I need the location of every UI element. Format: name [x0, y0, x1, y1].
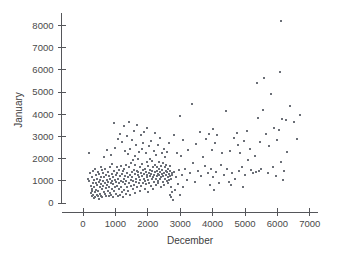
data-point	[102, 172, 104, 174]
data-point	[195, 143, 197, 145]
data-point	[139, 166, 141, 168]
data-point	[94, 168, 96, 170]
data-point	[152, 166, 154, 168]
data-point	[90, 185, 92, 187]
data-point	[112, 183, 114, 185]
data-point	[118, 182, 120, 184]
data-point	[163, 184, 165, 186]
data-point	[182, 139, 184, 141]
data-point	[167, 168, 169, 170]
data-point	[111, 180, 113, 182]
data-point	[226, 168, 228, 170]
data-point	[138, 176, 140, 178]
data-point	[153, 174, 155, 176]
y-axis-ticks: 010002000300040005000600070008000	[32, 20, 65, 209]
data-point	[95, 189, 97, 191]
data-point	[155, 154, 157, 156]
data-point	[265, 133, 267, 135]
data-point	[272, 166, 274, 168]
data-point	[169, 165, 171, 167]
data-point	[98, 198, 100, 200]
x-tick-label: 1000	[105, 218, 126, 229]
data-point	[92, 170, 94, 172]
data-point	[105, 195, 107, 197]
data-point	[147, 179, 149, 181]
data-point	[155, 178, 157, 180]
data-point	[255, 171, 257, 173]
data-point	[280, 20, 282, 22]
data-point	[171, 191, 173, 193]
data-point	[131, 139, 133, 141]
data-point	[213, 189, 215, 191]
data-point	[126, 186, 128, 188]
data-point	[148, 182, 150, 184]
data-point	[249, 148, 251, 150]
data-point	[181, 174, 183, 176]
data-point	[262, 109, 264, 111]
data-point	[100, 176, 102, 178]
data-point	[115, 181, 117, 183]
data-point	[160, 186, 162, 188]
data-point	[120, 186, 122, 188]
data-point	[210, 168, 212, 170]
data-point	[130, 179, 132, 181]
data-point	[233, 137, 235, 139]
data-point	[169, 194, 171, 196]
data-point	[212, 128, 214, 130]
data-point	[121, 141, 123, 143]
data-point	[167, 176, 169, 178]
data-point	[142, 142, 144, 144]
data-point	[136, 186, 138, 188]
data-point	[131, 171, 133, 173]
data-point	[163, 172, 165, 174]
data-point	[153, 150, 155, 152]
data-point	[115, 193, 117, 195]
data-point	[257, 117, 259, 119]
data-point	[115, 174, 117, 176]
data-point	[246, 130, 248, 132]
data-point	[128, 166, 130, 168]
data-point	[106, 179, 108, 181]
data-point	[293, 121, 295, 123]
data-point	[194, 181, 196, 183]
data-point	[144, 168, 146, 170]
data-point	[243, 140, 245, 142]
data-point	[101, 188, 103, 190]
data-point	[231, 172, 233, 174]
data-point	[242, 186, 244, 188]
x-axis-ticks: 01000200030004000500060007000	[80, 208, 320, 229]
x-tick-label: 4000	[202, 218, 223, 229]
data-point	[228, 181, 230, 183]
data-point	[90, 192, 92, 194]
data-point	[168, 179, 170, 181]
data-point	[158, 161, 160, 163]
data-point	[285, 119, 287, 121]
data-point	[89, 172, 91, 174]
data-point	[125, 180, 127, 182]
data-point	[107, 171, 109, 173]
data-point	[100, 195, 102, 197]
data-point	[146, 161, 148, 163]
data-point	[150, 173, 152, 175]
data-point	[96, 184, 98, 186]
data-point	[168, 173, 170, 175]
data-point	[144, 180, 146, 182]
data-point	[170, 178, 172, 180]
data-point	[102, 180, 104, 182]
data-point	[122, 181, 124, 183]
data-point	[170, 196, 172, 198]
data-point	[152, 176, 154, 178]
data-point	[159, 171, 161, 173]
data-point	[263, 77, 265, 79]
data-point	[112, 196, 114, 198]
data-point	[221, 152, 223, 154]
x-tick-label: 7000	[299, 218, 320, 229]
data-point	[132, 159, 134, 161]
data-point	[137, 171, 139, 173]
chart-canvas: 010002000300040005000600070008000 010002…	[0, 0, 340, 253]
data-point	[286, 151, 288, 153]
data-point	[111, 188, 113, 190]
data-point	[170, 186, 172, 188]
data-point	[132, 180, 134, 182]
data-point	[140, 134, 142, 136]
